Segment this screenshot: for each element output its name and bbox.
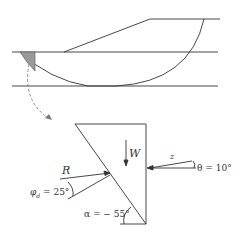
slope-cross-section — [12, 19, 220, 86]
slip-circle — [20, 19, 204, 86]
arrowhead-icon — [45, 114, 52, 120]
dashed-arrow — [28, 64, 48, 118]
interslice-force-arrow — [150, 161, 192, 168]
weight-label: W — [129, 148, 140, 159]
slope-diagram — [0, 0, 241, 241]
theta-arc — [193, 161, 195, 168]
theta-label: θ = 10° — [197, 164, 232, 173]
phi-label: φd = 25° — [30, 188, 69, 199]
toe-slice-shaded — [20, 52, 35, 71]
normal-line — [68, 175, 110, 199]
phi-value: = 25° — [40, 187, 69, 197]
resultant-label: R — [62, 165, 70, 176]
slope-surface — [64, 19, 220, 52]
interslice-label: z — [170, 153, 174, 161]
alpha-label: α = − 55° — [84, 210, 130, 219]
weight-arrowhead-icon — [124, 160, 128, 166]
